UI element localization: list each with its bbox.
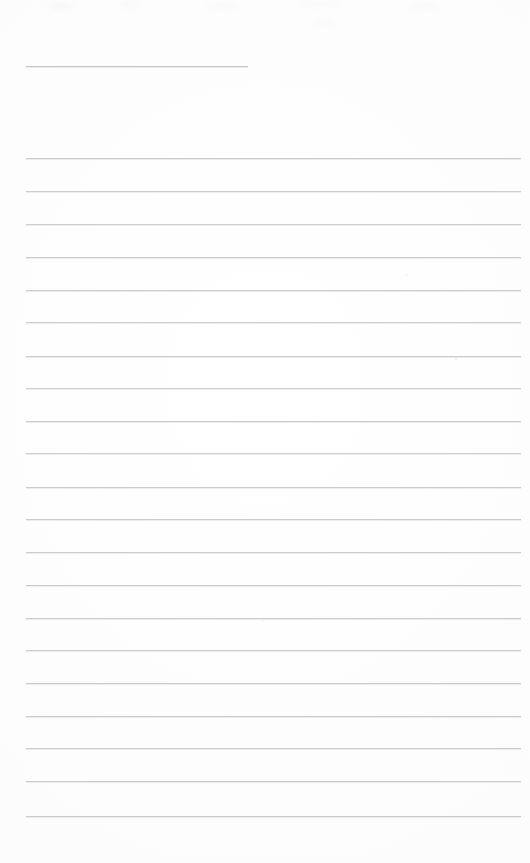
scan-smudge <box>300 1 340 8</box>
ruled-line <box>26 191 521 192</box>
ruled-line <box>26 257 521 258</box>
ruled-line <box>26 322 521 323</box>
scan-smudge <box>312 18 336 28</box>
ruled-line <box>26 816 521 817</box>
ruled-line <box>26 290 521 291</box>
paper-surface <box>0 0 530 863</box>
ruled-line <box>26 748 521 749</box>
scan-speck <box>455 358 457 360</box>
scan-speck <box>406 274 408 276</box>
scan-smudge <box>205 2 239 10</box>
scan-speck <box>262 620 264 622</box>
ruled-line <box>26 224 521 225</box>
ruled-line <box>26 519 521 520</box>
ruled-line <box>26 453 521 454</box>
scan-smudge <box>48 2 74 10</box>
ruled-line <box>26 716 521 717</box>
ruled-line <box>26 585 521 586</box>
ruled-line <box>26 618 521 619</box>
scan-smudge <box>410 2 440 10</box>
ruled-line <box>26 781 521 782</box>
scan-smudge <box>118 1 140 8</box>
ruled-line <box>26 421 521 422</box>
scanned-page <box>0 0 530 863</box>
ruled-line <box>26 158 521 159</box>
ruled-line <box>26 388 521 389</box>
ruled-line <box>26 66 248 67</box>
ruled-line <box>26 356 521 357</box>
ruled-line <box>26 552 521 553</box>
ruled-line <box>26 650 521 651</box>
ruled-line <box>26 487 521 488</box>
ruled-line <box>26 683 521 684</box>
